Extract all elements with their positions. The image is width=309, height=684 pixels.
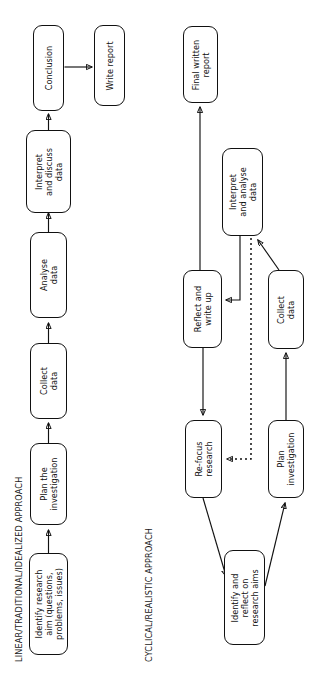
cyclical-diagram-title: CYCLICAL/REALISTIC APPROACH — [144, 528, 154, 662]
node-collect-data-cyclical[interactable]: Collect data — [268, 270, 304, 349]
node-label: Interpret and discuss data — [33, 148, 64, 196]
node-conclusion[interactable]: Conclusion — [33, 25, 64, 111]
node-label: Identify research aim (questions, proble… — [33, 568, 64, 640]
node-label: Collect data — [276, 295, 296, 323]
node-label: Write report — [104, 41, 114, 90]
node-identify-and-reflect-on-research-aims[interactable]: Identify and reflect on research aims — [224, 550, 265, 645]
node-label: Analyse data — [38, 259, 58, 291]
node-label: Re-focus research — [193, 441, 213, 476]
edge-c4-c5 — [226, 235, 240, 300]
edge-c6-c1 — [203, 498, 226, 576]
edge-c1-c2 — [265, 503, 285, 586]
node-label: Conclusion — [43, 46, 53, 91]
node-label: Plan the investigation — [38, 458, 58, 511]
node-identify-research-aim[interactable]: Identify research aim (questions, proble… — [29, 553, 68, 655]
figure-canvas: LINEAR/TRADITIONAL/IDEALIZED APPROACH Id… — [0, 0, 309, 684]
node-plan-the-investigation[interactable]: Plan the investigation — [30, 443, 67, 525]
edge-c3-c4 — [258, 240, 279, 270]
edge-c4-c6-dotted — [227, 238, 251, 459]
node-label: Final written report — [190, 39, 210, 89]
node-label: Reflect and write up — [192, 286, 212, 332]
node-interpret-and-analyse-data[interactable]: Interpret and analyse data — [222, 148, 263, 236]
node-analyse-data[interactable]: Analyse data — [30, 232, 67, 318]
node-label: Collect data — [38, 367, 58, 395]
node-re-focus-research[interactable]: Re-focus research — [185, 420, 222, 498]
node-plan-investigation[interactable]: Plan investigation — [268, 420, 304, 498]
node-interpret-and-discuss-data[interactable]: Interpret and discuss data — [26, 130, 71, 213]
node-final-written-report[interactable]: Final written report — [183, 26, 218, 103]
node-reflect-and-write-up[interactable]: Reflect and write up — [183, 270, 222, 348]
node-label: Plan investigation — [276, 433, 296, 486]
node-collect-data-linear[interactable]: Collect data — [30, 343, 67, 419]
node-label: Interpret and analyse data — [227, 167, 258, 217]
linear-diagram-title: LINEAR/TRADITIONAL/IDEALIZED APPROACH — [14, 477, 24, 662]
node-label: Identify and reflect on research aims — [229, 569, 260, 627]
node-write-report[interactable]: Write report — [94, 25, 125, 106]
